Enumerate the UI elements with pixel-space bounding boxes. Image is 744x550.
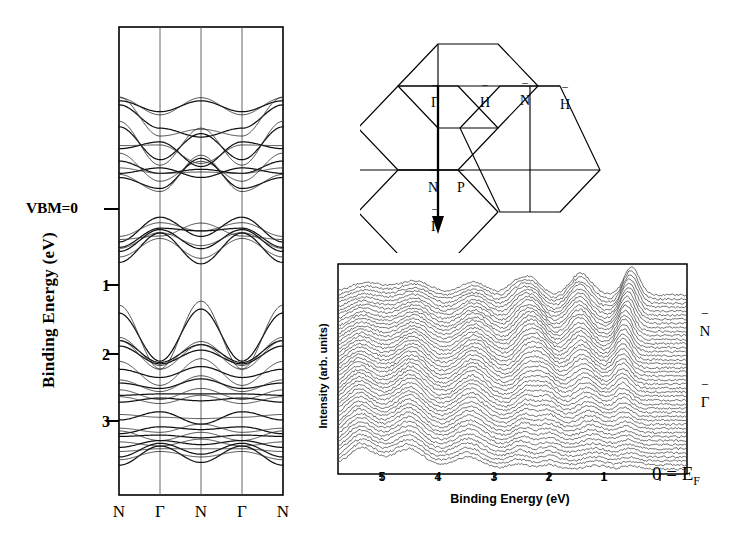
bz-label-gamma-bottom: ‾ Γ: [422, 214, 448, 235]
bz-label-p-text: P: [457, 180, 465, 195]
edc-klabel-n-text: N: [700, 323, 711, 339]
edc-xtick-2: 2: [539, 470, 559, 484]
bz-label-n-top: ‾ N: [512, 88, 538, 109]
bz-label-n-mid-text: N: [428, 180, 438, 195]
edc-fermi-label: 0 = EF: [652, 463, 700, 489]
edc-xtick-1: 1: [594, 470, 614, 484]
edc-x-axis-label: Binding Energy (eV): [360, 492, 660, 506]
band-structure-panel: Binding Energy (eV) VBM=0 1 2 3 N Γ N Γ …: [0, 0, 330, 550]
bz-label-n-mid: ‾ N: [420, 175, 446, 196]
bz-label-gamma-top: ‾ Γ: [422, 90, 448, 111]
edc-fermi-subscript: F: [693, 474, 700, 488]
band-structure-plot: [0, 0, 330, 550]
edc-spectra-panel: Intensity (arb. units) 5 4 3 2 1 0 = EF …: [300, 255, 744, 545]
edc-klabel-gamma: ‾ Γ: [692, 390, 718, 411]
figure-root: Binding Energy (eV) VBM=0 1 2 3 N Γ N Γ …: [0, 0, 744, 550]
bz-label-h-1-text: H: [480, 95, 490, 110]
bz-label-p: ‾ P: [448, 175, 474, 196]
bz-label-h-2: ‾ H: [552, 92, 578, 113]
edc-xtick-marks: [382, 474, 660, 481]
bz-label-h-2-text: H: [560, 97, 570, 112]
bz-label-gamma-top-text: Γ: [431, 95, 439, 110]
edc-klabel-n: ‾ N: [692, 319, 718, 340]
brillouin-zone-panel: ‾ Γ ‾ H ‾ N ‾ H ‾ N ‾ P ‾ Γ: [360, 18, 680, 253]
brillouin-zone-diagram: [360, 18, 680, 253]
band-ytick-marks: [104, 209, 119, 421]
bz-label-h-1: ‾ H: [472, 90, 498, 111]
bz-label-gamma-bottom-text: Γ: [431, 219, 439, 234]
edc-xtick-3: 3: [484, 470, 504, 484]
edc-xtick-4: 4: [428, 470, 448, 484]
edc-xtick-5: 5: [372, 470, 392, 484]
edc-fermi-text: 0 = E: [652, 463, 693, 484]
edc-klabel-gamma-text: Γ: [701, 394, 710, 410]
bz-label-n-top-text: N: [520, 93, 530, 108]
